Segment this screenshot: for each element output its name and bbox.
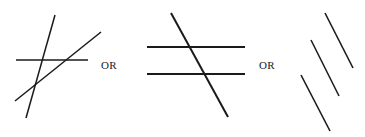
group-two-parallels-crossed-by-transversal bbox=[147, 13, 245, 117]
group-3-upper-right-segment bbox=[325, 13, 353, 68]
group-three-parallel-offset-segments bbox=[301, 13, 353, 131]
group-3-middle-segment bbox=[311, 40, 339, 96]
group-1-steep-ascending-line bbox=[26, 15, 55, 118]
group-three-mutually-intersecting-lines bbox=[15, 15, 101, 118]
line-configuration-figure: OR OR bbox=[0, 0, 365, 137]
group-3-lower-left-segment bbox=[301, 75, 330, 131]
group-2-transversal-line bbox=[171, 13, 228, 117]
figure-canvas bbox=[0, 0, 365, 137]
or-separator-label-1: OR bbox=[101, 60, 117, 71]
or-separator-label-2: OR bbox=[259, 60, 275, 71]
group-1-shallow-ascending-line bbox=[15, 32, 101, 101]
